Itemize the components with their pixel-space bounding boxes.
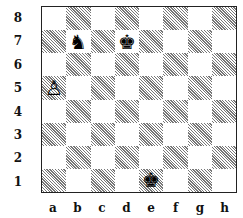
square-a2[interactable] <box>42 146 66 169</box>
square-e8[interactable] <box>139 7 163 30</box>
square-f1[interactable] <box>163 169 187 192</box>
square-a4[interactable] <box>42 100 66 123</box>
file-label-h: h <box>213 201 237 215</box>
square-g3[interactable] <box>188 123 212 146</box>
rank-label-7: 7 <box>12 34 24 48</box>
black-knight-icon[interactable]: ♞ <box>69 32 87 52</box>
square-c3[interactable] <box>91 123 115 146</box>
square-h5[interactable] <box>212 76 236 99</box>
square-c2[interactable] <box>91 146 115 169</box>
square-a6[interactable] <box>42 53 66 76</box>
square-f3[interactable] <box>163 123 187 146</box>
square-f7[interactable] <box>163 30 187 53</box>
square-b1[interactable] <box>66 169 90 192</box>
square-d6[interactable] <box>115 53 139 76</box>
square-b4[interactable] <box>66 100 90 123</box>
square-h2[interactable] <box>212 146 236 169</box>
square-d7[interactable]: ♚ <box>115 30 139 53</box>
square-e1[interactable]: ♚ <box>139 169 163 192</box>
square-g4[interactable] <box>188 100 212 123</box>
square-e7[interactable] <box>139 30 163 53</box>
square-a3[interactable] <box>42 123 66 146</box>
square-h7[interactable] <box>212 30 236 53</box>
square-b7[interactable]: ♞ <box>66 30 90 53</box>
square-e4[interactable] <box>139 100 163 123</box>
square-e5[interactable] <box>139 76 163 99</box>
square-c6[interactable] <box>91 53 115 76</box>
file-label-e: e <box>139 201 163 215</box>
rank-label-4: 4 <box>12 105 24 119</box>
square-d5[interactable] <box>115 76 139 99</box>
square-a7[interactable] <box>42 30 66 53</box>
square-g6[interactable] <box>188 53 212 76</box>
square-c7[interactable] <box>91 30 115 53</box>
square-a1[interactable] <box>42 169 66 192</box>
square-e2[interactable] <box>139 146 163 169</box>
square-f2[interactable] <box>163 146 187 169</box>
square-f5[interactable] <box>163 76 187 99</box>
rank-label-3: 3 <box>12 128 24 142</box>
square-c1[interactable] <box>91 169 115 192</box>
square-b5[interactable] <box>66 76 90 99</box>
square-b3[interactable] <box>66 123 90 146</box>
square-d2[interactable] <box>115 146 139 169</box>
square-h4[interactable] <box>212 100 236 123</box>
square-f4[interactable] <box>163 100 187 123</box>
square-d8[interactable] <box>115 7 139 30</box>
file-label-g: g <box>188 201 212 215</box>
white-pawn-icon[interactable]: ♙ <box>45 78 63 98</box>
square-f8[interactable] <box>163 7 187 30</box>
square-h1[interactable] <box>212 169 236 192</box>
rank-label-2: 2 <box>12 151 24 165</box>
file-label-b: b <box>66 201 90 215</box>
rank-label-8: 8 <box>12 11 24 25</box>
square-b6[interactable] <box>66 53 90 76</box>
rank-label-1: 1 <box>12 175 24 189</box>
square-c5[interactable] <box>91 76 115 99</box>
black-king-icon[interactable]: ♚ <box>118 32 136 52</box>
square-g2[interactable] <box>188 146 212 169</box>
rank-label-5: 5 <box>12 81 24 95</box>
file-label-c: c <box>90 201 114 215</box>
square-d1[interactable] <box>115 169 139 192</box>
rank-label-6: 6 <box>12 58 24 72</box>
square-a8[interactable] <box>42 7 66 30</box>
square-c4[interactable] <box>91 100 115 123</box>
square-g1[interactable] <box>188 169 212 192</box>
square-e3[interactable] <box>139 123 163 146</box>
file-label-a: a <box>41 201 65 215</box>
square-h3[interactable] <box>212 123 236 146</box>
chess-board: ♞♚♙♚ <box>41 6 237 193</box>
file-label-f: f <box>164 201 188 215</box>
square-b2[interactable] <box>66 146 90 169</box>
square-g7[interactable] <box>188 30 212 53</box>
black-king-icon[interactable]: ♚ <box>142 170 160 190</box>
file-label-d: d <box>115 201 139 215</box>
square-h8[interactable] <box>212 7 236 30</box>
square-a5[interactable]: ♙ <box>42 76 66 99</box>
square-c8[interactable] <box>91 7 115 30</box>
square-e6[interactable] <box>139 53 163 76</box>
square-d4[interactable] <box>115 100 139 123</box>
square-g8[interactable] <box>188 7 212 30</box>
square-g5[interactable] <box>188 76 212 99</box>
square-b8[interactable] <box>66 7 90 30</box>
square-f6[interactable] <box>163 53 187 76</box>
square-h6[interactable] <box>212 53 236 76</box>
square-d3[interactable] <box>115 123 139 146</box>
